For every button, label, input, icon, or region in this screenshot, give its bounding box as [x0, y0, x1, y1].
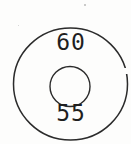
diagram-canvas: 60 55 — [0, 0, 131, 144]
scan-speck — [18, 25, 19, 26]
bottom-number-label: 55 — [56, 102, 86, 125]
outer-circle-stroke-gap — [124, 68, 129, 74]
top-number-label: 60 — [56, 31, 86, 54]
scan-speck — [84, 4, 86, 6]
